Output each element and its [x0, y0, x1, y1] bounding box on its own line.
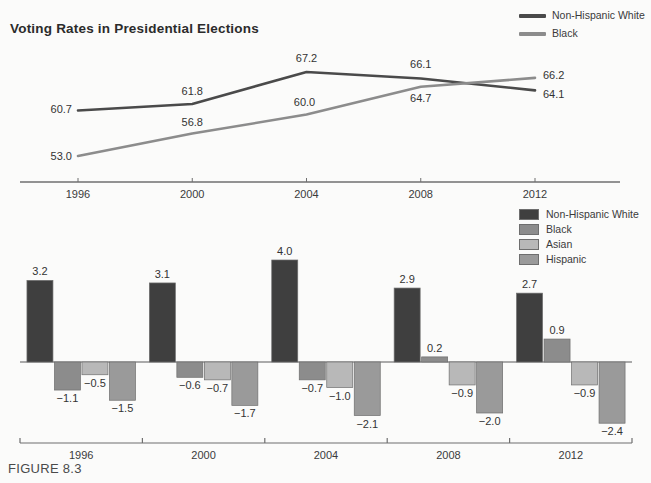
bar-value-label: 3.1	[155, 268, 170, 280]
bar	[232, 362, 258, 405]
figure-caption: FIGURE 8.3	[8, 461, 82, 476]
figure-8-3: Voting Rates in Presidential Elections N…	[0, 0, 651, 483]
bar-value-label: 2.9	[400, 273, 415, 285]
bar-value-label: −1.5	[112, 402, 134, 414]
bar	[27, 280, 53, 362]
bar	[149, 283, 175, 362]
line-series-black	[78, 78, 535, 156]
bar-chart-canvas: 3.2−1.1−0.5−1.53.1−0.6−0.7−1.74.0−0.7−1.…	[0, 210, 651, 483]
x-axis-tick-label: 2012	[523, 188, 547, 200]
bar	[82, 362, 108, 375]
bar-value-label: 4.0	[277, 245, 292, 257]
x-axis-tick-label: 1996	[66, 188, 90, 200]
bar	[544, 339, 570, 362]
line-chart-canvas: 1996200020042008201260.761.867.266.164.1…	[0, 0, 651, 210]
x-axis-tick-label: 2012	[559, 449, 583, 461]
bar-value-label: −2.0	[479, 415, 501, 427]
bar	[394, 288, 420, 362]
bar	[422, 357, 448, 362]
data-label: 66.2	[543, 69, 564, 81]
data-label: 61.8	[182, 85, 203, 97]
bar-value-label: −0.9	[451, 387, 473, 399]
bar	[299, 362, 325, 380]
data-label: 53.0	[51, 150, 72, 162]
line-chart: 1996200020042008201260.761.867.266.164.1…	[0, 0, 651, 210]
x-axis-tick-label: 2008	[436, 449, 460, 461]
bar-value-label: −1.0	[329, 390, 351, 402]
bar	[354, 362, 380, 416]
x-axis-tick-label: 1996	[69, 449, 93, 461]
bar	[599, 362, 625, 423]
bar-value-label: 3.2	[32, 265, 47, 277]
bar-value-label: 2.7	[522, 278, 537, 290]
bar	[327, 362, 353, 388]
x-axis-tick-label: 2000	[180, 188, 204, 200]
bar	[449, 362, 475, 385]
bar-value-label: −1.1	[57, 392, 79, 404]
bar	[177, 362, 203, 377]
data-label: 60.7	[51, 103, 72, 115]
data-label: 56.8	[182, 116, 203, 128]
x-axis-tick-label: 2000	[191, 449, 215, 461]
bar-chart: 3.2−1.1−0.5−1.53.1−0.6−0.7−1.74.0−0.7−1.…	[0, 210, 651, 483]
bar-value-label: −0.5	[84, 377, 106, 389]
bar-value-label: −2.4	[601, 425, 623, 437]
data-label: 60.0	[294, 96, 315, 108]
bar	[517, 293, 543, 362]
bar-value-label: −0.9	[574, 387, 596, 399]
bar	[109, 362, 135, 400]
bar-value-label: −2.1	[356, 418, 378, 430]
bar-value-label: −0.7	[206, 382, 228, 394]
bar-value-label: 0.9	[549, 324, 564, 336]
bar	[272, 260, 298, 362]
bar-value-label: −0.6	[179, 379, 201, 391]
bar	[572, 362, 598, 385]
data-label: 64.1	[543, 88, 564, 100]
bar-value-label: −1.7	[234, 407, 256, 419]
bar	[477, 362, 503, 413]
bar	[204, 362, 230, 380]
x-axis-tick-label: 2004	[294, 188, 318, 200]
bar-value-label: −0.7	[301, 382, 323, 394]
bar	[54, 362, 80, 390]
x-axis-tick-label: 2008	[409, 188, 433, 200]
data-label: 67.2	[296, 52, 317, 64]
data-label: 64.7	[410, 92, 431, 104]
data-label: 66.1	[410, 58, 431, 70]
x-axis-tick-label: 2004	[314, 449, 338, 461]
bar-value-label: 0.2	[427, 342, 442, 354]
